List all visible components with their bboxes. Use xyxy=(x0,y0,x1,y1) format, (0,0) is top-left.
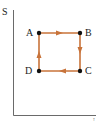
point-c xyxy=(78,69,82,73)
point-b xyxy=(78,31,82,35)
direction-arrows xyxy=(37,31,83,74)
label-c: C xyxy=(85,65,92,76)
cycle-points xyxy=(37,31,82,73)
y-axis-label: S xyxy=(2,6,8,17)
arrow-right-icon xyxy=(56,31,63,36)
arrow-left-icon xyxy=(59,69,66,74)
cycle-diagram: S T A B C D xyxy=(0,0,100,122)
label-b: B xyxy=(85,27,92,38)
arrow-up-icon xyxy=(37,51,42,58)
point-a xyxy=(37,31,41,35)
x-axis-label: T xyxy=(93,118,95,122)
point-d xyxy=(37,69,41,73)
label-a: A xyxy=(26,27,34,38)
cycle-path xyxy=(39,33,80,71)
arrow-down-icon xyxy=(78,47,83,54)
label-d: D xyxy=(25,65,32,76)
